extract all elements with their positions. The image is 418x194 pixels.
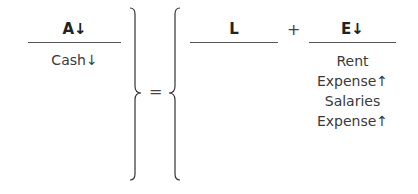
equity-item-rent: Rent bbox=[300, 51, 405, 71]
equity-items: Rent Expense↑ Salaries Expense↑ bbox=[300, 51, 405, 131]
equity-item-salaries-expense: Expense↑ bbox=[300, 111, 405, 131]
equity-item-rent-expense: Expense↑ bbox=[300, 71, 405, 91]
equity-header: E↓ bbox=[309, 20, 396, 38]
equals-sign: = bbox=[149, 82, 162, 101]
right-brace-icon bbox=[128, 6, 144, 182]
liabilities-header: L bbox=[190, 20, 278, 38]
plus-sign: + bbox=[287, 20, 300, 39]
equity-divider bbox=[309, 42, 396, 43]
assets-header: A↓ bbox=[28, 20, 121, 38]
liabilities-divider bbox=[190, 42, 278, 43]
left-brace-icon bbox=[166, 6, 182, 182]
equity-item-salaries: Salaries bbox=[300, 91, 405, 111]
assets-divider bbox=[28, 42, 121, 43]
assets-item-cash: Cash↓ bbox=[28, 50, 121, 70]
